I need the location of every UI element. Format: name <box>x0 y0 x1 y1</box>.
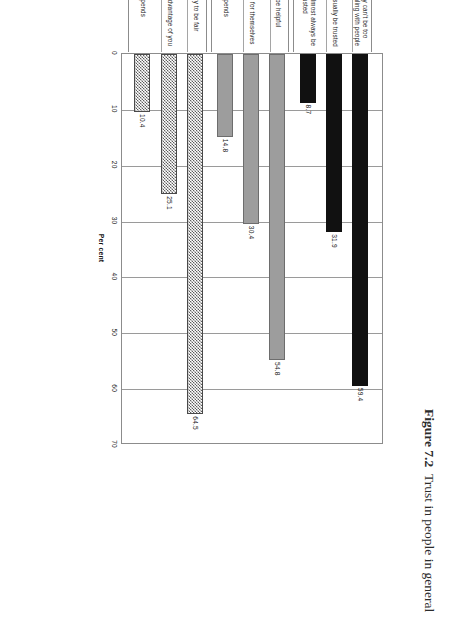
group-separator <box>128 0 129 52</box>
bar-value-label-8: 10.4 <box>138 114 145 128</box>
group-separator <box>371 0 372 52</box>
y-axis-tick-70: 70 <box>111 440 118 448</box>
category-label-8: Depends <box>139 0 147 47</box>
bar-value-label-5: 14.8 <box>221 139 228 153</box>
y-axis-tick-0: 0 <box>111 51 118 55</box>
y-axis-tick-10: 10 <box>111 105 118 113</box>
bar-1: 31.9 <box>325 54 341 232</box>
category-separator <box>269 0 270 52</box>
y-axis-tick-40: 40 <box>111 273 118 281</box>
gridline <box>122 277 382 278</box>
gridline <box>122 333 382 334</box>
category-separator <box>187 0 188 52</box>
axis-title-per-cent: Per cent <box>98 234 105 262</box>
y-axis-tick-30: 30 <box>111 217 118 225</box>
chart-rotation-wrapper: 59.431.98.754.830.414.864.525.110.4 0102… <box>65 0 395 515</box>
category-separator <box>326 0 327 52</box>
bar-value-label-3: 54.8 <box>273 362 280 376</box>
bar-value-label-6: 64.5 <box>191 416 198 430</box>
category-label-7: Would take advantage of you <box>165 0 173 47</box>
category-label-4: Just look out for themselves <box>248 0 256 47</box>
group-separator <box>293 0 294 52</box>
bar-chart: 59.431.98.754.830.414.864.525.110.4 0102… <box>65 0 395 515</box>
plot-area: 59.431.98.754.830.414.864.525.110.4 <box>121 53 383 444</box>
category-label-0: You usually can't be too careful in deal… <box>353 0 368 47</box>
bar-6: 64.5 <box>186 54 202 414</box>
bar-4: 30.4 <box>243 54 259 224</box>
bar-8: 10.4 <box>134 54 150 112</box>
bar-2: 8.7 <box>299 54 315 103</box>
bar-value-label-7: 25.1 <box>165 196 172 210</box>
figure-number: Figure 7.2 <box>422 409 437 467</box>
bar-7: 25.1 <box>160 54 176 194</box>
bar-value-label-0: 59.4 <box>356 388 363 402</box>
gridline <box>122 389 382 390</box>
y-axis-tick-20: 20 <box>111 161 118 169</box>
category-separator <box>160 0 161 52</box>
category-label-3: Try to be helpful <box>274 0 282 47</box>
figure-caption-text: Trust in people in general <box>422 474 437 612</box>
y-axis-tick-60: 60 <box>111 384 118 392</box>
bar-0: 59.4 <box>352 54 368 386</box>
bar-value-label-1: 31.9 <box>330 234 337 248</box>
category-label-5: Depends <box>222 0 230 47</box>
group-separator <box>205 0 206 52</box>
category-label-2: People can almost always be trusted <box>301 0 316 47</box>
category-separator <box>243 0 244 52</box>
group-separator <box>288 0 289 52</box>
bar-value-label-4: 30.4 <box>247 226 254 240</box>
category-label-6: Would try to be fair <box>192 0 200 47</box>
category-separator <box>352 0 353 52</box>
bar-5: 14.8 <box>217 54 233 137</box>
figure-caption: Figure 7.2 Trust in people in general <box>403 408 455 618</box>
bar-3: 54.8 <box>269 54 285 360</box>
y-axis-tick-50: 50 <box>111 328 118 336</box>
bar-value-label-2: 8.7 <box>304 105 311 115</box>
category-label-1: People can usually be trusted <box>331 0 339 47</box>
group-separator <box>210 0 211 52</box>
